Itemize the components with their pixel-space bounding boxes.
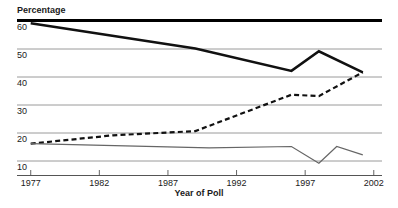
- series-layer: [31, 23, 363, 163]
- y-tick-label: 40: [17, 78, 27, 88]
- x-axis-tick-labels: 197719821987199219972002: [21, 178, 384, 188]
- series-solid-thick-series: [31, 23, 363, 72]
- y-axis-tick-labels: 102030405060: [17, 22, 27, 172]
- x-axis-title: Year of Poll: [174, 188, 223, 198]
- x-tick-label: 2002: [364, 178, 384, 188]
- line-chart: Percentage 102030405060 1977198219871992…: [0, 0, 398, 208]
- y-axis-title: Percentage: [17, 5, 66, 15]
- chart-container: Percentage 102030405060 1977198219871992…: [0, 0, 398, 208]
- y-tick-label: 10: [17, 162, 27, 172]
- x-tick-label: 1982: [89, 178, 109, 188]
- y-tick-label: 50: [17, 50, 27, 60]
- series-thin-gray-series: [31, 144, 363, 164]
- x-tick-label: 1977: [21, 178, 41, 188]
- x-tick-label: 1997: [295, 178, 315, 188]
- x-tick-label: 1992: [227, 178, 247, 188]
- y-tick-label: 20: [17, 134, 27, 144]
- x-tick-label: 1987: [158, 178, 178, 188]
- y-tick-label: 60: [17, 22, 27, 32]
- x-axis-ticks: [31, 170, 374, 176]
- y-tick-label: 30: [17, 106, 27, 116]
